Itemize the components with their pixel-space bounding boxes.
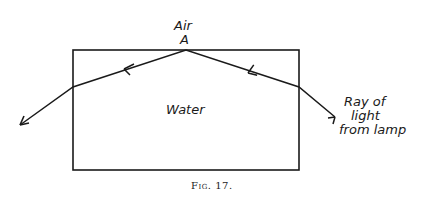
arrowhead-icon xyxy=(20,116,29,125)
arrow-chevron-icon xyxy=(124,64,134,75)
ray-label-line1: Ray of xyxy=(344,95,385,108)
ray-tail-icon xyxy=(328,117,335,124)
figure-caption: Fig. 17. xyxy=(191,180,233,191)
point-a-label: A xyxy=(180,33,189,46)
water-label: Water xyxy=(166,103,205,116)
ray-label-line2: light xyxy=(351,109,380,122)
air-label: Air xyxy=(174,19,192,32)
ray-label-line3: from lamp xyxy=(339,123,406,136)
